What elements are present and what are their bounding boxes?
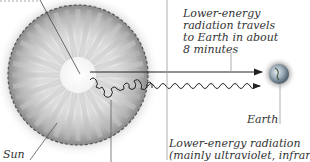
label-travel-line-4: 8 minutes: [183, 44, 278, 56]
earth-globe: [269, 64, 289, 84]
label-emission-line-2: (mainly ultraviolet, infrared,: [169, 150, 310, 162]
label-travel: Lower-energy radiation travels to Earth …: [183, 8, 278, 56]
label-emission: Lower-energy radiation (mainly ultraviol…: [169, 138, 310, 162]
sun: [0, 0, 160, 157]
earth: [262, 57, 296, 91]
label-earth: Earth: [247, 114, 278, 126]
wave-emission: [148, 84, 260, 89]
label-sun: Sun: [3, 149, 25, 161]
